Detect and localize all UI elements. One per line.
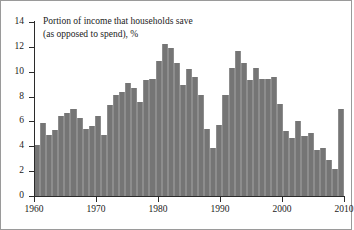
x-tick-mark (34, 197, 35, 202)
x-axis-line (34, 196, 345, 197)
x-tick-mark (344, 197, 345, 202)
y-tick-label: 4 (19, 141, 24, 151)
x-tick-label: 2010 (335, 205, 354, 215)
x-tick-mark (158, 197, 159, 202)
y-axis-line (34, 21, 35, 197)
x-tick-mark (96, 197, 97, 202)
bar-slot-last (338, 22, 344, 196)
x-tick-label: 1980 (149, 205, 168, 215)
y-tick-label: 0 (19, 191, 24, 201)
y-tick-mark (29, 171, 34, 172)
y-tick-label: 6 (19, 116, 24, 126)
x-tick-label: 1960 (25, 205, 44, 215)
x-tick-label: 1970 (87, 205, 106, 215)
bar-last (338, 109, 344, 196)
plot-area (34, 22, 344, 196)
y-tick-mark (29, 22, 34, 23)
x-tick-mark (220, 197, 221, 202)
y-tick-mark (29, 121, 34, 122)
y-tick-label: 2 (19, 166, 24, 176)
y-tick-label: 12 (15, 42, 25, 52)
y-tick-mark (29, 146, 34, 147)
y-tick-label: 14 (15, 17, 25, 27)
y-tick-mark (29, 72, 34, 73)
y-tick-mark (29, 97, 34, 98)
y-tick-label: 10 (15, 67, 25, 77)
bar-series (34, 22, 344, 196)
x-tick-label: 2000 (273, 205, 292, 215)
y-tick-label: 8 (19, 92, 24, 102)
x-tick-label: 1990 (211, 205, 230, 215)
x-tick-mark (282, 197, 283, 202)
y-tick-mark (29, 47, 34, 48)
